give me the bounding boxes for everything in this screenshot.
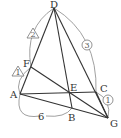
ratio-CG: 1 — [106, 96, 111, 105]
point-label-D: D — [50, 0, 58, 10]
point-label-C: C — [100, 83, 108, 94]
point-label-G: G — [110, 118, 118, 129]
geometry-diagram: 2 1 3 1 6 D F A E C B G — [0, 0, 121, 138]
ratio-DF: 2 — [31, 30, 36, 39]
ratio-FA: 1 — [16, 68, 21, 77]
segment-AC — [20, 92, 96, 94]
point-label-B: B — [68, 112, 75, 123]
point-label-E: E — [70, 82, 77, 93]
length-AB: 6 — [38, 111, 44, 122]
point-label-F: F — [23, 58, 30, 69]
ratio-DC: 3 — [85, 41, 90, 50]
arc-AB — [19, 94, 72, 117]
segment-DA — [20, 8, 54, 94]
point-label-A: A — [9, 89, 18, 100]
